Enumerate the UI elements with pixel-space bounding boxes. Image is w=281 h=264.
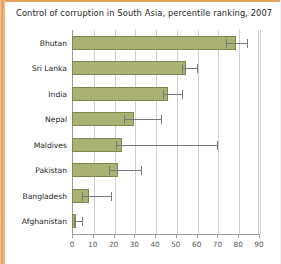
error-bar-line xyxy=(116,145,218,146)
x-axis-tick-label: 10 xyxy=(88,240,97,249)
bar xyxy=(72,61,186,75)
error-bar-cap-low xyxy=(182,64,183,73)
bar xyxy=(72,36,236,50)
error-bar-cap-low xyxy=(116,141,117,150)
chart-figure: Control of corruption in South Asia, per… xyxy=(0,0,281,264)
x-axis-tick-label: 20 xyxy=(109,240,118,249)
x-axis-tick-label: 80 xyxy=(234,240,243,249)
error-bar-line xyxy=(124,119,161,120)
x-axis-tick xyxy=(238,234,239,238)
error-bar-cap-high xyxy=(217,141,218,150)
error-bar-cap-high xyxy=(82,217,83,226)
x-axis-tick xyxy=(176,234,177,238)
bar xyxy=(72,138,122,152)
x-axis-tick xyxy=(197,234,198,238)
error-bar-cap-low xyxy=(226,39,227,48)
error-bar-cap-low xyxy=(163,90,164,99)
gridline xyxy=(198,30,199,234)
error-bar-line xyxy=(82,196,111,197)
x-axis-tick-label: 30 xyxy=(130,240,139,249)
chart-title: Control of corruption in South Asia, per… xyxy=(16,8,274,18)
x-axis-tick-label: 60 xyxy=(192,240,201,249)
y-axis-category-label: Pakistan xyxy=(35,166,67,175)
y-axis-category-label: Nepal xyxy=(45,115,67,124)
gridline xyxy=(260,30,261,234)
x-axis-tick xyxy=(155,234,156,238)
error-bar-cap-low xyxy=(82,192,83,201)
y-axis-category-label: Bangladesh xyxy=(22,191,67,200)
error-bar-line xyxy=(109,170,140,171)
error-bar-line xyxy=(182,68,197,69)
gridline xyxy=(239,30,240,234)
x-axis-tick xyxy=(72,234,73,238)
right-border xyxy=(280,0,281,264)
error-bar-line xyxy=(163,94,182,95)
error-bar-cap-high xyxy=(197,64,198,73)
x-axis-tick-label: 50 xyxy=(171,240,180,249)
error-bar-cap-high xyxy=(161,115,162,124)
x-axis-tick xyxy=(114,234,115,238)
x-axis-line xyxy=(72,234,259,235)
y-axis-category-label: Afghanistan xyxy=(22,217,67,226)
x-axis-tick xyxy=(134,234,135,238)
error-bar-cap-low xyxy=(109,166,110,175)
y-axis-category-label: India xyxy=(48,89,67,98)
y-axis-category-label: Sri Lanka xyxy=(32,64,67,73)
x-axis-tick-label: 90 xyxy=(254,240,263,249)
x-axis-tick xyxy=(217,234,218,238)
x-axis-tick xyxy=(259,234,260,238)
error-bar-cap-low xyxy=(124,115,125,124)
error-bar-cap-high xyxy=(247,39,248,48)
y-axis-category-label: Maldives xyxy=(34,140,67,149)
error-bar-cap-high xyxy=(182,90,183,99)
error-bar-line xyxy=(74,221,82,222)
bar xyxy=(72,87,168,101)
top-accent-rule xyxy=(0,0,281,2)
error-bar-line xyxy=(226,43,247,44)
x-axis-tick xyxy=(93,234,94,238)
error-bar-cap-high xyxy=(141,166,142,175)
error-bar-cap-low xyxy=(74,217,75,226)
x-axis-tick-label: 40 xyxy=(150,240,159,249)
left-accent-stripe xyxy=(0,0,5,264)
x-axis-tick-label: 0 xyxy=(70,240,75,249)
gridline xyxy=(218,30,219,234)
x-axis-tick-label: 70 xyxy=(213,240,222,249)
y-axis-category-label: Bhutan xyxy=(40,38,67,47)
error-bar-cap-high xyxy=(111,192,112,201)
